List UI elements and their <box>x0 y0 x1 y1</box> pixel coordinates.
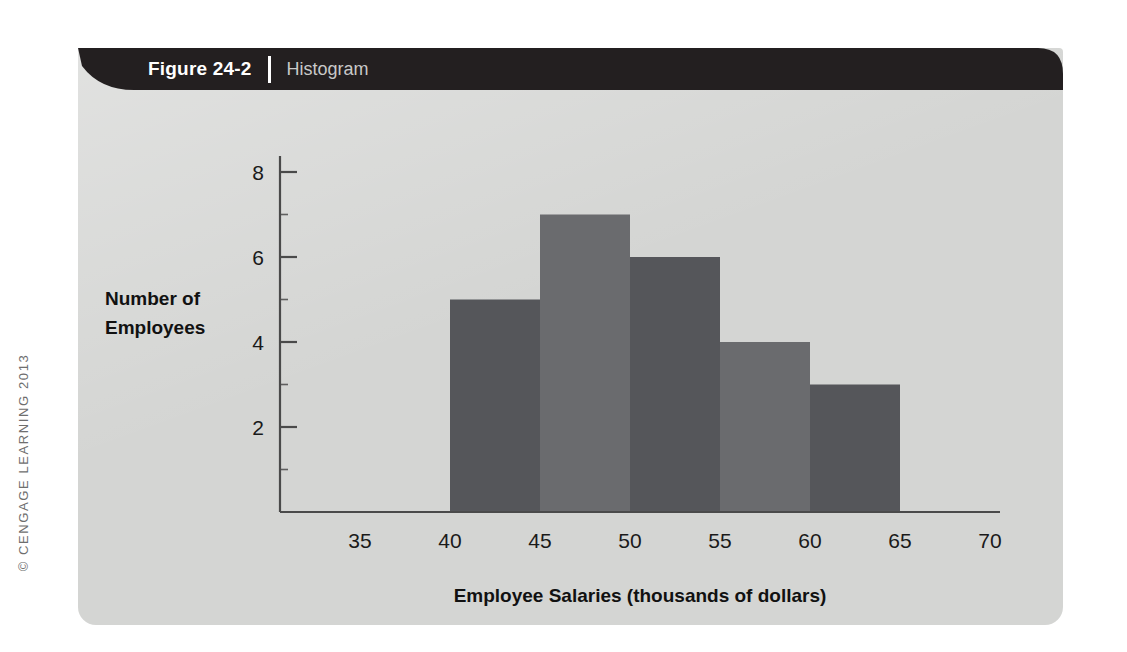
figure-root: Figure 24-2 Histogram © CENGAGE LEARNING… <box>0 0 1127 652</box>
figure-panel <box>78 48 1063 625</box>
figure-caption-label: Histogram <box>287 59 369 80</box>
copyright-notice: © CENGAGE LEARNING 2013 <box>16 348 31 578</box>
header-divider <box>268 56 271 83</box>
figure-header-banner: Figure 24-2 Histogram <box>78 48 1063 90</box>
figure-number-label: Figure 24-2 <box>148 58 252 80</box>
